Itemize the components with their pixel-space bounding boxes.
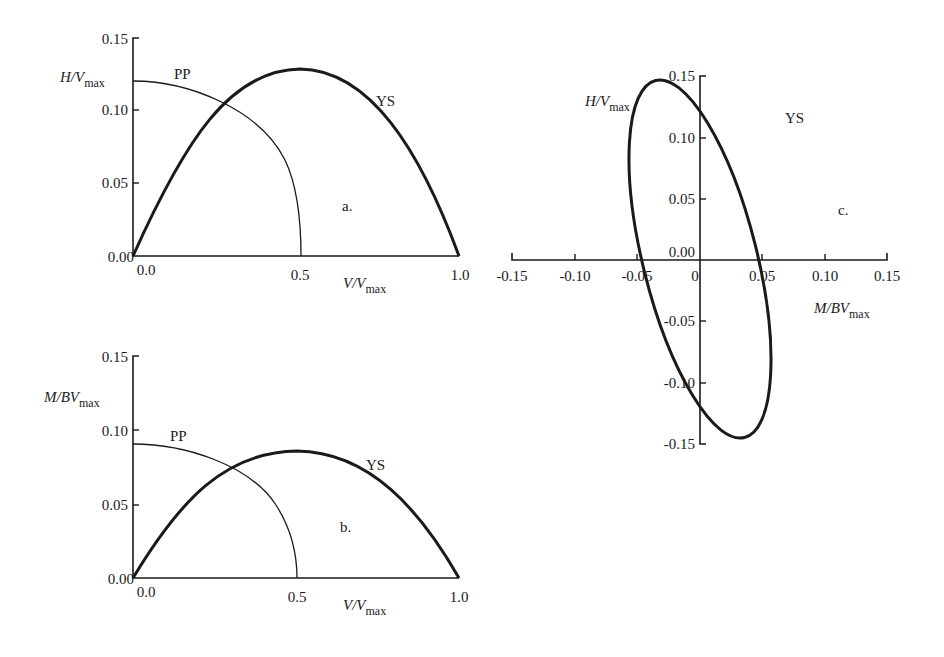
panel-c-xtick-label: 0.10 xyxy=(812,268,838,284)
panel-b-xtick-label: 0.5 xyxy=(288,589,307,605)
panel-b: 0.15 0.10 0.05 0.00 0.0 0.5 1.0 M/BVmax … xyxy=(43,349,468,618)
panel-c-ytick-label: -0.05 xyxy=(664,313,695,329)
panel-b-ytick-label: 0.15 xyxy=(102,349,128,365)
panel-a-xlabel: V/Vmax xyxy=(343,275,386,296)
panel-b-ys-label: YS xyxy=(366,457,385,473)
panel-a-xtick-label: 1.0 xyxy=(451,267,470,283)
panel-c-xtick-label: -0.10 xyxy=(559,268,590,284)
figure: 0.15 0.10 0.05 0.00 0.0 0.5 1.0 H/Vmax V… xyxy=(0,0,944,657)
panel-c-ytick-label: 0.05 xyxy=(669,191,695,207)
panel-c-xtick-label: 0.15 xyxy=(874,268,900,284)
panel-a-ytick-label: 0.05 xyxy=(102,175,128,191)
panel-b-ylabel: M/BVmax xyxy=(43,389,100,410)
panel-c-ytick-label: -0.15 xyxy=(664,436,695,452)
panel-a: 0.15 0.10 0.05 0.00 0.0 0.5 1.0 H/Vmax V… xyxy=(59,31,469,296)
panel-c-tag: c. xyxy=(838,202,848,218)
panel-b-tag: b. xyxy=(340,519,351,535)
panel-a-xtick-label: 0.5 xyxy=(291,267,310,283)
panel-c-xtick-label: 0 xyxy=(691,268,699,284)
panel-c-ytick-label: 0.10 xyxy=(669,130,695,146)
panel-b-xtick-label: 1.0 xyxy=(450,589,469,605)
panel-b-ytick-label: 0.00 xyxy=(108,571,134,587)
panel-b-pp-curve xyxy=(133,444,297,578)
panel-b-ytick-label: 0.10 xyxy=(102,423,128,439)
panel-c-ytick-label: 0.15 xyxy=(669,68,695,84)
panel-a-ys-curve xyxy=(133,69,459,256)
panel-b-ytick-label: 0.05 xyxy=(102,497,128,513)
panel-a-xtick-label: 0.0 xyxy=(137,262,156,278)
panel-b-xtick-label: 0.0 xyxy=(137,584,156,600)
panel-b-axes xyxy=(133,356,459,578)
panel-a-tag: a. xyxy=(342,198,352,214)
panel-a-ytick-label: 0.00 xyxy=(108,249,134,265)
panel-a-ylabel: H/Vmax xyxy=(59,69,105,90)
panel-b-pp-label: PP xyxy=(170,428,187,444)
panel-c-ytick-label: 0.00 xyxy=(669,244,695,260)
panel-b-xlabel: V/Vmax xyxy=(343,597,386,618)
panel-c-xlabel: M/BVmax xyxy=(813,300,870,321)
panel-a-ytick-label: 0.10 xyxy=(102,102,128,118)
panel-c-xtick-label: -0.15 xyxy=(496,268,527,284)
panel-c: 0.15 0.10 0.05 0.00 -0.05 -0.10 -0.15 -0… xyxy=(496,67,900,452)
panel-a-pp-label: PP xyxy=(174,66,191,82)
panel-a-ys-label: YS xyxy=(376,93,395,109)
panel-a-pp-curve xyxy=(133,81,301,256)
panel-c-ylabel: H/Vmax xyxy=(584,93,630,114)
panel-c-ys-label: YS xyxy=(785,110,804,126)
panel-a-ytick-label: 0.15 xyxy=(102,31,128,47)
